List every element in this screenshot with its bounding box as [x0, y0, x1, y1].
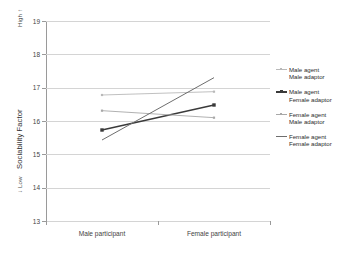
- x-tick-label-0: Male participant: [52, 230, 152, 237]
- series-1-point-0: [100, 128, 103, 131]
- legend-label-line1-0: Male agent: [289, 66, 346, 73]
- legend-item-0[interactable]: Male agentMale adaptor: [276, 66, 346, 81]
- legend-label-line2-1: Female adaptor: [289, 96, 346, 103]
- series-2-point-1: [213, 117, 215, 119]
- legend-label-line1-2: Female agent: [289, 111, 346, 118]
- legend-item-3[interactable]: Female agentFemale adaptor: [276, 133, 346, 148]
- series-1-point-1: [212, 103, 215, 106]
- series-lines: [46, 21, 270, 221]
- y-tick-label-18: 18: [0, 51, 40, 58]
- legend-label-line1-1: Male agent: [289, 88, 346, 95]
- legend-item-2[interactable]: Female agentMale adaptor: [276, 111, 346, 126]
- y-tick-label-15: 15: [0, 151, 40, 158]
- series-line-2: [102, 111, 214, 118]
- interaction-line-chart: High ↑ Sociability Factor ↓ Low 13141516…: [0, 0, 347, 267]
- legend-marker-icon-0: [280, 68, 282, 70]
- legend-marker-icon-2: [280, 113, 282, 115]
- series-0-point-1: [213, 91, 215, 93]
- x-tick-mark-2: [270, 221, 271, 225]
- y-tick-label-14: 14: [0, 184, 40, 191]
- x-tick-label-1: Female participant: [164, 230, 264, 237]
- legend-item-1[interactable]: Male agentFemale adaptor: [276, 88, 346, 103]
- y-tick-label-13: 13: [0, 218, 40, 225]
- x-tick-mark-0: [46, 221, 47, 225]
- x-tick-mark-1: [158, 221, 159, 225]
- legend-label-line2-3: Female adaptor: [289, 140, 346, 147]
- legend-label-line1-3: Female agent: [289, 133, 346, 140]
- legend-marker-icon-1: [280, 90, 283, 93]
- chart-legend: Male agentMale adaptorMale agentFemale a…: [276, 66, 346, 155]
- series-line-0: [102, 92, 214, 95]
- legend-line-swatch-icon-1: [276, 91, 287, 92]
- legend-line-swatch-icon-0: [276, 69, 287, 70]
- y-tick-label-17: 17: [0, 84, 40, 91]
- y-tick-label-19: 19: [0, 18, 40, 25]
- legend-line-swatch-icon-2: [276, 114, 287, 115]
- legend-line-swatch-icon-3: [276, 136, 287, 137]
- plot-area: [46, 21, 270, 221]
- y-tick-label-16: 16: [0, 118, 40, 125]
- series-0-point-0: [101, 94, 103, 96]
- legend-label-line2-2: Male adaptor: [289, 118, 346, 125]
- series-2-point-0: [101, 110, 103, 112]
- legend-label-line2-0: Male adaptor: [289, 73, 346, 80]
